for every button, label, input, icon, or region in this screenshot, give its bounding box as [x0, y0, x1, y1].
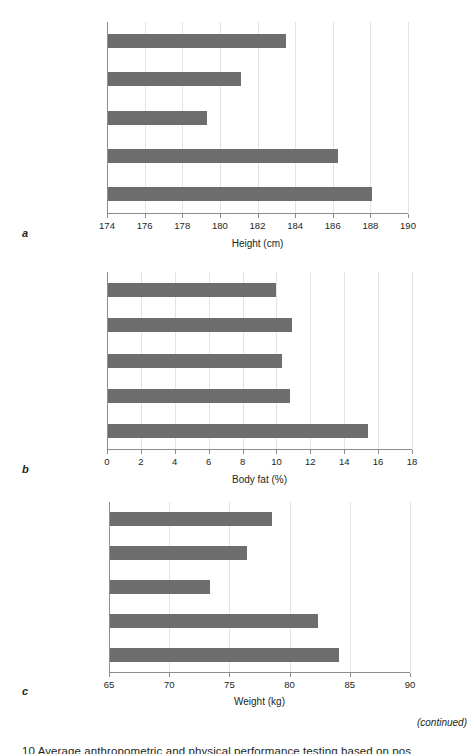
bar: [109, 614, 318, 628]
x-axis-tick-label: 190: [388, 221, 428, 231]
gridline: [333, 22, 334, 213]
gridline: [378, 272, 379, 449]
x-axis-tick: [276, 450, 277, 454]
bar: [109, 546, 247, 560]
x-axis-tick: [107, 214, 108, 218]
x-axis-tick-label: 85: [330, 680, 370, 690]
x-axis-tick: [145, 214, 146, 218]
gridline: [412, 272, 413, 449]
bar: [107, 149, 338, 163]
gridline: [295, 22, 296, 213]
gridline: [350, 502, 351, 672]
x-axis-tick: [258, 214, 259, 218]
bar: [107, 283, 276, 297]
x-axis-tick: [107, 450, 108, 454]
gridline: [220, 22, 221, 213]
y-axis-line: [107, 272, 108, 449]
x-axis-tick-label: 75: [209, 680, 249, 690]
x-axis-tick-label: 65: [89, 680, 129, 690]
x-axis-tick: [333, 214, 334, 218]
bar: [107, 354, 282, 368]
gridline: [370, 22, 371, 213]
x-axis-line: [109, 672, 410, 673]
chart-panel-b: ForwardMidfielderExternal defenderCentra…: [0, 250, 475, 490]
axis-title-c: Weight (kg): [69, 697, 450, 707]
x-axis-tick-label: 178: [162, 221, 202, 231]
x-axis-tick-label: 180: [200, 221, 240, 231]
x-axis-tick: [169, 673, 170, 677]
y-axis-line: [107, 22, 108, 213]
gridline: [229, 502, 230, 672]
x-axis-tick: [408, 214, 409, 218]
x-axis-tick: [344, 450, 345, 454]
bar: [107, 72, 241, 86]
x-axis-tick-label: 182: [238, 221, 278, 231]
x-axis-tick: [310, 450, 311, 454]
x-axis-tick: [243, 450, 244, 454]
gridline: [258, 22, 259, 213]
gridline: [344, 272, 345, 449]
x-axis-tick: [220, 214, 221, 218]
gridline: [410, 502, 411, 672]
x-axis-tick-label: 90: [390, 680, 430, 690]
x-axis-tick: [175, 450, 176, 454]
bar: [107, 34, 286, 48]
bar: [109, 648, 339, 662]
x-axis-tick: [378, 450, 379, 454]
bar: [107, 424, 368, 438]
x-axis-tick-label: 174: [87, 221, 127, 231]
gridline: [290, 502, 291, 672]
bar: [109, 512, 272, 526]
x-axis-tick-label: 80: [270, 680, 310, 690]
panel-letter-c: c: [22, 686, 28, 697]
x-axis-tick: [410, 673, 411, 677]
bar: [107, 187, 372, 201]
x-axis-tick: [109, 673, 110, 677]
x-axis-tick: [412, 450, 413, 454]
gridline: [310, 272, 311, 449]
x-axis-tick: [295, 214, 296, 218]
x-axis-tick: [209, 450, 210, 454]
panel-letter-b: b: [22, 464, 29, 475]
x-axis-tick: [290, 673, 291, 677]
bar: [107, 389, 290, 403]
x-axis-line: [107, 449, 412, 450]
axis-title-b: Body fat (%): [67, 475, 452, 485]
chart-panel-a: ForwardMidfielderExternal defenderCentra…: [0, 0, 475, 250]
y-axis-line: [109, 502, 110, 672]
bar: [107, 318, 292, 332]
x-axis-tick: [229, 673, 230, 677]
figure-caption-partial: 10 Average anthropometric and physical p…: [22, 744, 472, 754]
x-axis-tick: [182, 214, 183, 218]
figure-page: ForwardMidfielderExternal defenderCentra…: [0, 0, 475, 754]
x-axis-tick: [141, 450, 142, 454]
x-axis-tick: [350, 673, 351, 677]
x-axis-tick-label: 176: [125, 221, 165, 231]
x-axis-tick-label: 184: [275, 221, 315, 231]
x-axis-tick-label: 186: [313, 221, 353, 231]
bar: [107, 111, 207, 125]
x-axis-tick: [370, 214, 371, 218]
bar: [109, 580, 210, 594]
chart-panel-c: ForwardMidfielderExternal defenderCentra…: [0, 490, 475, 710]
panel-letter-a: a: [22, 228, 28, 239]
axis-title-a: Height (cm): [67, 239, 448, 249]
gridline: [408, 22, 409, 213]
x-axis-tick-label: 188: [350, 221, 390, 231]
x-axis-tick-label: 70: [149, 680, 189, 690]
x-axis-tick-label: 18: [392, 457, 432, 467]
continued-note: (continued): [417, 718, 467, 728]
